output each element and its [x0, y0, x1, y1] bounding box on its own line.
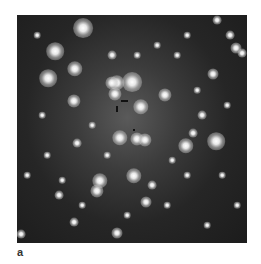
- star: [17, 230, 25, 239]
- star: [226, 31, 235, 40]
- star: [164, 202, 171, 209]
- star: [46, 42, 64, 60]
- star: [158, 88, 171, 101]
- star: [70, 218, 79, 227]
- star: [55, 191, 64, 200]
- star: [44, 152, 51, 159]
- star: [122, 72, 142, 92]
- star: [104, 152, 111, 159]
- star: [154, 42, 161, 49]
- star: [67, 61, 82, 76]
- star: [219, 172, 226, 179]
- star: [39, 112, 46, 119]
- star: [73, 18, 93, 38]
- star: [238, 49, 247, 58]
- star: [207, 132, 225, 150]
- star: [67, 94, 80, 107]
- position-marker: [116, 106, 118, 112]
- star: [138, 133, 151, 146]
- star: [134, 52, 141, 59]
- star: [24, 172, 31, 179]
- star: [204, 222, 211, 229]
- star: [112, 228, 123, 239]
- position-marker: [121, 100, 128, 102]
- star: [194, 87, 201, 94]
- star: [169, 157, 176, 164]
- star: [224, 102, 231, 109]
- star: [184, 32, 191, 39]
- star: [89, 122, 96, 129]
- star: [234, 202, 241, 209]
- star: [178, 138, 193, 153]
- star-cluster-image: [17, 15, 247, 243]
- star: [213, 16, 222, 25]
- star: [112, 130, 127, 145]
- star: [59, 177, 66, 184]
- star: [189, 129, 198, 138]
- star: [148, 181, 157, 190]
- star: [126, 168, 141, 183]
- star: [79, 202, 86, 209]
- star: [90, 184, 103, 197]
- star: [141, 197, 152, 208]
- star: [108, 87, 121, 100]
- star: [39, 69, 57, 87]
- panel-label: a: [17, 246, 23, 258]
- star: [124, 212, 131, 219]
- star: [208, 69, 219, 80]
- star: [174, 52, 181, 59]
- position-marker: [133, 129, 135, 131]
- star: [73, 139, 82, 148]
- star: [184, 172, 191, 179]
- star: [108, 51, 117, 60]
- star: [34, 32, 41, 39]
- star: [198, 111, 207, 120]
- star: [133, 99, 148, 114]
